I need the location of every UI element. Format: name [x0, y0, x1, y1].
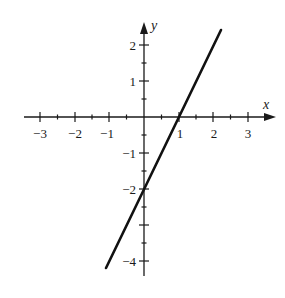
y-tick-label: −1	[122, 146, 136, 161]
y-axis-arrow-icon	[140, 22, 148, 34]
x-axis	[24, 112, 276, 122]
x-tick-label: 1	[177, 126, 184, 141]
x-tick-label: 2	[211, 126, 218, 141]
y-axis-label: y	[149, 18, 158, 33]
x-axis-label: x	[262, 97, 270, 112]
line-graph: −3 −2 −1 1 2 3 2 1 −1 −2 −4 x y	[0, 0, 285, 298]
x-tick-label: −3	[33, 126, 47, 141]
y-tick-label: −2	[122, 182, 136, 197]
y-axis	[139, 22, 149, 276]
y-tick-label: 1	[130, 74, 137, 89]
x-tick-label: −2	[68, 126, 82, 141]
y-tick-label: 2	[130, 38, 137, 53]
x-axis-arrow-icon	[264, 113, 276, 121]
y-tick-label: −4	[122, 254, 136, 269]
x-tick-label: 3	[245, 126, 252, 141]
x-tick-label: −1	[100, 126, 114, 141]
